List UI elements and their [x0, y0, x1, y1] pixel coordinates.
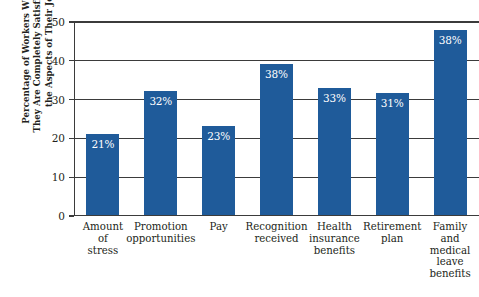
y-tick-mark: [69, 215, 74, 216]
x-tick-label-line: Family: [415, 221, 479, 233]
bar-value-label: 38%: [260, 68, 293, 80]
x-tick-label-line: opportunities: [126, 233, 196, 245]
bar-value-label: 32%: [144, 95, 177, 107]
bar[interactable]: 21%: [86, 134, 119, 215]
bar-slot: 21%: [74, 22, 132, 215]
y-tick-label: 0: [58, 210, 65, 222]
bar-value-label: 38%: [434, 34, 467, 46]
x-tick-label-line: benefits: [299, 245, 369, 257]
x-tick-label-line: and: [415, 233, 479, 245]
bar[interactable]: 38%: [434, 30, 467, 215]
bar[interactable]: 33%: [318, 88, 351, 215]
bar-value-label: 33%: [318, 92, 351, 104]
bar[interactable]: 38%: [260, 64, 293, 214]
bar-slot: 23%: [190, 22, 248, 215]
plot-area: 01020304050 21%32%23%38%33%31%38%: [74, 22, 479, 216]
bar-slot: 33%: [305, 22, 363, 215]
bar-slot: 32%: [132, 22, 190, 215]
bar-slot: 38%: [248, 22, 306, 215]
x-tick-label: Familyandmedicalleavebenefits: [415, 221, 479, 280]
x-tick-label-line: medical: [415, 245, 479, 257]
x-tick-label-line: stress: [68, 245, 138, 257]
x-tick-label-line: benefits: [415, 268, 479, 280]
bar[interactable]: 32%: [144, 91, 177, 214]
y-axis-title-line-1: Percentage of Workers Who Say: [21, 0, 32, 124]
x-tick-labels: AmountofstressPromotionopportunitiesPayR…: [74, 221, 479, 293]
bar-value-label: 23%: [202, 130, 235, 142]
bar-slot: 38%: [421, 22, 479, 215]
x-tick-label-line: leave: [415, 256, 479, 268]
bar-slot: 31%: [363, 22, 421, 215]
y-tick-label: 10: [52, 171, 65, 183]
bar-value-label: 21%: [86, 138, 119, 150]
x-axis-line: [74, 215, 479, 216]
y-tick-label: 50: [52, 16, 65, 28]
bar-chart: Percentage of Workers Who Say They Are C…: [0, 0, 479, 297]
bar[interactable]: 23%: [202, 126, 235, 215]
bar-series: 21%32%23%38%33%31%38%: [74, 22, 479, 215]
y-tick-label: 20: [52, 132, 65, 144]
y-tick-label: 40: [52, 55, 65, 67]
bar-value-label: 31%: [376, 97, 409, 109]
y-axis-title-line-2: They Are Completely Satisfied With: [32, 0, 43, 132]
y-tick-label: 30: [52, 94, 65, 106]
bar[interactable]: 31%: [376, 93, 409, 214]
